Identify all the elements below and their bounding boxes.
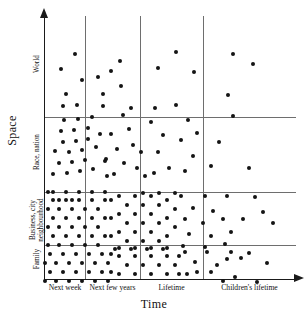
- data-point: [193, 260, 198, 265]
- data-point: [226, 93, 231, 98]
- data-point: [64, 190, 69, 195]
- data-point: [157, 263, 162, 268]
- data-point: [65, 171, 70, 176]
- data-point: [145, 247, 150, 252]
- data-point: [51, 234, 56, 239]
- data-point: [103, 216, 108, 221]
- data-point: [271, 221, 276, 226]
- data-point: [241, 217, 246, 222]
- data-point: [173, 225, 178, 230]
- data-point: [109, 216, 114, 221]
- x-tick-label-3: Children's lifetime: [203, 283, 296, 292]
- data-point: [43, 261, 48, 266]
- data-point: [125, 239, 130, 244]
- data-point: [48, 270, 53, 275]
- data-point: [195, 131, 200, 136]
- data-point: [183, 250, 188, 255]
- data-point: [77, 198, 82, 203]
- data-point: [46, 207, 51, 212]
- data-point: [133, 246, 138, 251]
- data-point: [57, 225, 62, 230]
- data-point: [156, 66, 161, 71]
- data-point: [74, 139, 79, 144]
- data-point: [247, 251, 252, 256]
- data-point: [141, 263, 146, 268]
- data-point: [157, 191, 162, 196]
- data-point: [51, 198, 56, 203]
- data-point: [57, 207, 62, 212]
- data-point: [141, 239, 146, 244]
- data-point: [173, 207, 178, 212]
- data-point: [100, 270, 105, 275]
- data-point: [133, 194, 138, 199]
- data-point: [57, 243, 62, 248]
- data-point: [173, 191, 178, 196]
- data-point: [109, 234, 114, 239]
- data-point: [139, 150, 144, 155]
- data-point: [247, 166, 252, 171]
- data-point: [51, 190, 56, 195]
- data-point: [77, 216, 82, 221]
- y-tick-label-3: World: [33, 13, 41, 114]
- data-point: [96, 207, 101, 212]
- data-point: [59, 129, 64, 134]
- data-point: [67, 261, 72, 266]
- data-point: [165, 246, 170, 251]
- data-point: [87, 270, 92, 275]
- data-point: [109, 69, 114, 74]
- data-point: [185, 272, 190, 277]
- data-point: [113, 247, 118, 252]
- y-tick-label-1: Business, cityneighbourhood: [29, 193, 45, 246]
- data-point: [229, 230, 234, 235]
- y-tick-label-0: Family: [33, 242, 41, 276]
- data-point: [61, 104, 66, 109]
- data-point: [64, 198, 69, 203]
- data-point: [83, 207, 88, 212]
- data-point: [191, 154, 196, 159]
- data-point: [112, 172, 117, 177]
- data-point: [72, 128, 77, 133]
- data-point: [61, 270, 66, 275]
- data-point: [157, 239, 162, 244]
- data-point: [109, 198, 114, 203]
- data-point: [117, 254, 122, 259]
- data-point: [105, 174, 110, 179]
- data-point: [83, 225, 88, 230]
- data-point: [103, 190, 108, 195]
- data-point: [174, 50, 179, 55]
- space-time-dot-density-chart: Space Time Next weekNext few yearsLifeti…: [0, 0, 308, 315]
- y-tick-label-line: neighbourhood: [37, 198, 45, 242]
- data-point: [233, 275, 238, 280]
- data-point: [225, 257, 230, 262]
- data-point: [70, 198, 75, 203]
- data-point: [122, 161, 127, 166]
- data-point: [133, 230, 138, 235]
- data-point: [165, 234, 170, 239]
- data-point: [133, 254, 138, 259]
- data-point: [149, 212, 154, 217]
- data-point: [125, 263, 130, 268]
- data-point: [70, 243, 75, 248]
- data-point: [57, 161, 62, 166]
- data-point: [61, 140, 66, 145]
- data-point: [192, 70, 197, 75]
- data-point: [135, 166, 140, 171]
- data-point: [57, 198, 62, 203]
- y-tick-label-line: Family: [33, 249, 41, 269]
- data-point: [141, 203, 146, 208]
- y-axis-title: Space: [5, 96, 20, 166]
- data-point: [229, 250, 234, 255]
- data-point: [191, 206, 196, 211]
- data-point: [98, 132, 103, 137]
- data-point: [117, 230, 122, 235]
- data-point: [70, 207, 75, 212]
- data-point: [51, 216, 56, 221]
- vertical-gridline-0: [85, 16, 86, 279]
- data-point: [96, 225, 101, 230]
- data-point: [209, 270, 214, 275]
- data-point: [127, 127, 132, 132]
- data-point: [143, 174, 148, 179]
- data-point: [149, 194, 154, 199]
- data-point: [74, 270, 79, 275]
- data-point: [86, 137, 91, 142]
